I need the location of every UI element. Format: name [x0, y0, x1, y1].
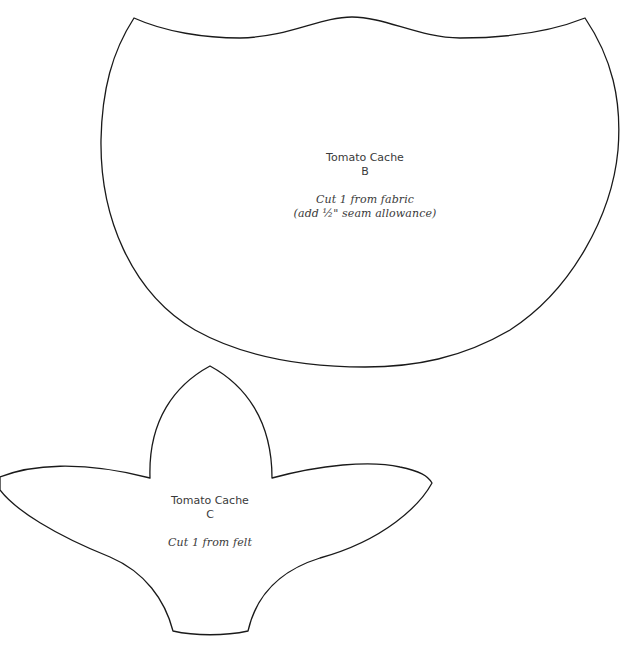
cut-instruction: Cut 1 from fabric [270, 193, 460, 207]
cut-instruction: Cut 1 from felt [140, 536, 280, 550]
piece-letter: C [140, 508, 280, 522]
pattern-piece-b-label: Tomato Cache B Cut 1 from fabric (add ½"… [270, 151, 460, 221]
seam-allowance-note: (add ½" seam allowance) [270, 207, 460, 221]
piece-title: Tomato Cache [140, 494, 280, 508]
piece-letter: B [270, 165, 460, 179]
pattern-sheet [0, 0, 631, 652]
spacer [140, 522, 280, 536]
spacer [270, 179, 460, 193]
pattern-piece-c-label: Tomato Cache C Cut 1 from felt [140, 494, 280, 550]
piece-title: Tomato Cache [270, 151, 460, 165]
